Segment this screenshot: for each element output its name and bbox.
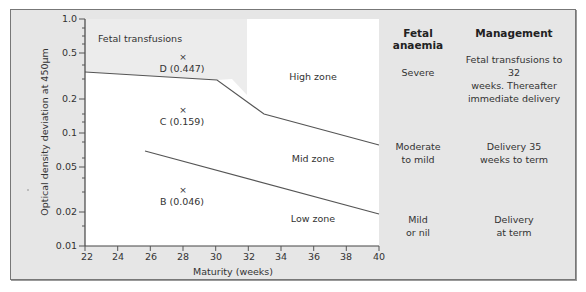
point-b-marker: × xyxy=(179,185,187,195)
svg-text:0.5: 0.5 xyxy=(62,47,77,58)
svg-text:28: 28 xyxy=(177,251,189,262)
svg-text:0.01: 0.01 xyxy=(56,240,77,251)
svg-text:34: 34 xyxy=(275,251,287,262)
svg-text:0.1: 0.1 xyxy=(62,127,77,138)
point-d-label: D (0.447) xyxy=(160,63,205,74)
y-tick-labels: 1.0 0.5 0.2 0.1 0.05 0.02 0.01 xyxy=(56,13,77,251)
row-moderate-management: Delivery 35 weeks to term xyxy=(460,140,568,166)
y-ticks xyxy=(79,19,85,246)
svg-text:40: 40 xyxy=(373,251,385,262)
svg-text:26: 26 xyxy=(145,251,157,262)
svg-text:0.02: 0.02 xyxy=(56,206,77,217)
point-c-label: C (0.159) xyxy=(160,116,204,127)
svg-text:22: 22 xyxy=(81,251,93,262)
header-fetal-anaemia: Fetal anaemia xyxy=(380,27,456,51)
point-b-label: B (0.046) xyxy=(160,196,204,207)
row-moderate-anaemia: Moderate to mild xyxy=(380,140,456,166)
x-tick-labels: 22 24 26 28 30 32 34 36 38 40 xyxy=(81,251,385,262)
mid-zone-label: Mid zone xyxy=(292,153,335,164)
x-axis-title: Maturity (weeks) xyxy=(193,266,273,277)
fetal-transfusions-label: Fetal transfusions xyxy=(98,33,182,44)
svg-text:0.2: 0.2 xyxy=(62,93,77,104)
svg-text:24: 24 xyxy=(112,251,124,262)
header-management: Management xyxy=(460,27,568,39)
point-c-marker: × xyxy=(179,105,187,115)
high-zone-label: High zone xyxy=(289,71,337,82)
svg-text:38: 38 xyxy=(340,251,352,262)
row-severe-management: Fetal transfusions to 32 weeks. Thereaft… xyxy=(460,53,568,105)
stray-dot xyxy=(27,189,29,191)
row-mild-management: Delivery at term xyxy=(460,213,568,239)
row-severe-anaemia: Severe xyxy=(380,66,456,79)
y-axis-title: Optical density deviation at 450µm xyxy=(39,48,50,216)
svg-text:0.05: 0.05 xyxy=(56,161,77,172)
svg-text:1.0: 1.0 xyxy=(62,13,77,24)
point-d-marker: × xyxy=(179,52,187,62)
low-zone-label: Low zone xyxy=(291,213,336,224)
row-mild-anaemia: Mild or nil xyxy=(380,213,456,239)
svg-text:32: 32 xyxy=(243,251,255,262)
x-ticks xyxy=(85,246,379,251)
svg-text:30: 30 xyxy=(210,251,222,262)
svg-text:36: 36 xyxy=(308,251,320,262)
